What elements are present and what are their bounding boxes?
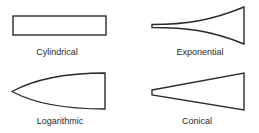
horn-profiles-diagram — [0, 0, 259, 133]
conical-shape — [152, 73, 244, 110]
conical-label: Conical — [182, 116, 212, 126]
exponential-label: Exponential — [176, 47, 223, 57]
cylindrical-shape — [13, 16, 106, 35]
exponential-shape — [152, 7, 244, 44]
logarithmic-label: Logarithmic — [37, 116, 84, 126]
cylindrical-label: Cylindrical — [36, 47, 78, 57]
logarithmic-shape — [12, 73, 105, 109]
